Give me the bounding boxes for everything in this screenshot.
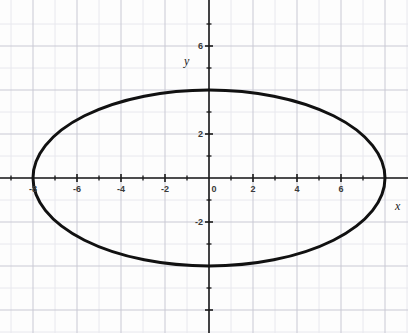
y-axis-name: y xyxy=(184,55,189,67)
y-tick-label-2: 2 xyxy=(189,130,203,139)
x-axis-name: x xyxy=(395,200,400,212)
x-tick-label-0: 0 xyxy=(211,185,216,194)
graph-canvas: -8-6-4-2024662-2yx xyxy=(0,0,408,333)
y-tick-label--2: -2 xyxy=(189,218,203,227)
x-tick-label--6: -6 xyxy=(73,185,81,194)
x-tick-label--2: -2 xyxy=(161,185,169,194)
ellipse-plot xyxy=(0,0,408,333)
y-tick-label-6: 6 xyxy=(189,42,203,51)
x-tick-label-4: 4 xyxy=(294,185,299,194)
x-tick-label--4: -4 xyxy=(117,185,125,194)
x-tick-label--8: -8 xyxy=(29,185,37,194)
x-tick-label-6: 6 xyxy=(338,185,343,194)
x-tick-label-2: 2 xyxy=(250,185,255,194)
